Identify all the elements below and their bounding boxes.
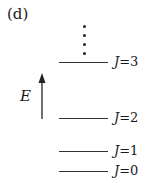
level-label: J=2 (114, 111, 138, 125)
ellipsis-dot (83, 43, 86, 46)
energy-arrow-icon (36, 72, 48, 122)
j-value: =0 (119, 163, 138, 178)
level-line (59, 151, 108, 152)
j-value: =1 (119, 143, 138, 158)
ellipsis-dot (83, 34, 86, 37)
panel-label: (d) (7, 5, 28, 23)
level-line (59, 171, 108, 172)
level-line (59, 118, 108, 119)
ellipsis-dot (83, 52, 86, 55)
level-label: J=1 (114, 144, 138, 158)
level-label: J=3 (114, 55, 138, 69)
ellipsis-dot (83, 25, 86, 28)
energy-axis-label: E (20, 87, 31, 105)
j-value: =3 (119, 54, 138, 69)
j-value: =2 (119, 110, 138, 125)
level-label: J=0 (114, 164, 138, 178)
level-line (59, 62, 108, 63)
